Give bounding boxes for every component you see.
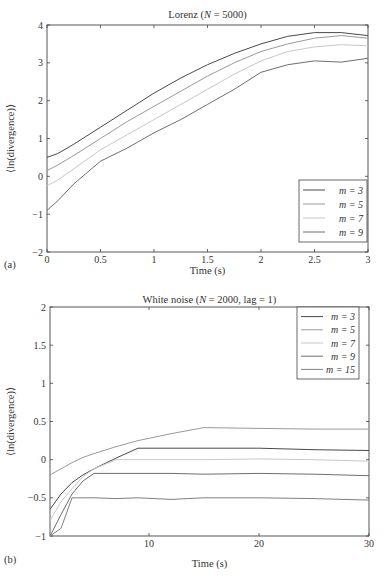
x-tick-label: 2.5 (308, 254, 321, 265)
chart-title: White noise (N = 2000, lag = 1) (143, 294, 277, 306)
series-line (50, 459, 369, 521)
chart-panel-b: −1−0.500.511.52102030White noise (N = 20… (4, 294, 374, 570)
y-tick-label: 1 (41, 378, 46, 389)
x-tick-label: 1 (152, 254, 157, 265)
legend-entry: m = 3 (331, 311, 355, 322)
x-tick-label: 2 (259, 254, 264, 265)
y-tick-label: 0 (38, 171, 43, 182)
legend-entry: m = 7 (339, 213, 364, 224)
series-line (50, 498, 369, 536)
legend-entry: m = 7 (331, 338, 356, 349)
y-tick-label: −2 (32, 247, 43, 258)
y-tick-label: 2 (41, 302, 46, 313)
y-tick-label: 1 (38, 133, 43, 144)
x-tick-label: 0.5 (94, 254, 107, 265)
y-tick-label: 0 (41, 454, 46, 465)
y-axis-label: ⟨ln(divergence)⟩ (5, 387, 17, 456)
legend-entry: m = 9 (339, 227, 363, 238)
panel-label: (b) (4, 554, 17, 566)
figure: −2−10123400.511.522.53Lorenz (N = 5000)T… (0, 0, 388, 581)
chart-panel-a: −2−10123400.511.522.53Lorenz (N = 5000)T… (4, 9, 371, 277)
x-tick-label: 10 (144, 538, 154, 549)
y-axis-label: ⟨ln(divergence)⟩ (5, 104, 17, 173)
x-tick-label: 20 (254, 538, 264, 549)
legend: m = 3m = 5m = 7m = 9m = 15 (297, 307, 359, 379)
series-line (47, 45, 368, 186)
x-axis-label: Time (s) (192, 558, 228, 570)
panel-label: (a) (4, 259, 16, 271)
y-tick-label: 0.5 (34, 416, 47, 427)
legend-entry: m = 15 (326, 364, 355, 375)
x-tick-label: 3 (366, 254, 371, 265)
x-tick-label: 1.5 (201, 254, 214, 265)
series-line (50, 473, 369, 536)
series-line (47, 36, 368, 171)
y-tick-label: 2 (38, 95, 43, 106)
legend-entry: m = 5 (339, 199, 363, 210)
x-tick-label: 0 (45, 254, 50, 265)
chart-title: Lorenz (N = 5000) (168, 9, 247, 21)
y-tick-label: 3 (38, 57, 43, 68)
y-tick-label: −0.5 (28, 492, 46, 503)
series-line (50, 428, 369, 475)
legend-entry: m = 3 (339, 185, 363, 196)
y-tick-label: −1 (35, 531, 46, 542)
x-axis-label: Time (s) (190, 265, 226, 277)
y-tick-label: −1 (32, 209, 43, 220)
legend: m = 3m = 5m = 7m = 9 (299, 180, 367, 242)
y-tick-label: 4 (38, 20, 43, 31)
legend-entry: m = 9 (331, 351, 355, 362)
series-line (47, 33, 368, 158)
x-tick-label: 30 (364, 538, 374, 549)
legend-entry: m = 5 (331, 324, 355, 335)
series-line (50, 448, 369, 509)
y-tick-label: 1.5 (34, 340, 47, 351)
